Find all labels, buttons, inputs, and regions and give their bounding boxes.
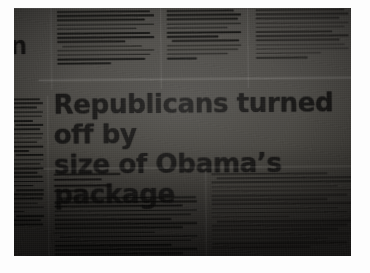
- byline: [54, 173, 120, 196]
- photograph-contents: en s Republicans turned off by size of O…: [14, 8, 351, 256]
- byline-outlet: [54, 184, 111, 187]
- edge-headline-line-2: s: [14, 58, 33, 84]
- column-top-right: [255, 8, 349, 83]
- newspaper-photograph: en s Republicans turned off by size of O…: [14, 8, 351, 256]
- byline-reporter: [54, 173, 120, 176]
- headline-block: Republicans turned off by size of Obama’…: [51, 81, 351, 171]
- edge-headline-line-1: en: [14, 32, 32, 58]
- column-top-left: [57, 10, 155, 85]
- column-body-left: [54, 196, 197, 256]
- byline-title: [54, 179, 102, 181]
- column-body-right: [211, 172, 351, 256]
- column-side-left: [14, 98, 44, 256]
- headline-line-1: Republicans turned off by: [53, 87, 351, 150]
- byline-dateline: [54, 190, 86, 192]
- column-top-center: [166, 9, 241, 84]
- photo-page-background: en s Republicans turned off by size of O…: [0, 0, 370, 273]
- edge-headline-fragment: en s: [14, 32, 33, 84]
- headline-accessible-text: Republicans turned off by size of Obama’…: [0, 0, 1, 1]
- focus-blur-layer: en s Republicans turned off by size of O…: [14, 8, 351, 256]
